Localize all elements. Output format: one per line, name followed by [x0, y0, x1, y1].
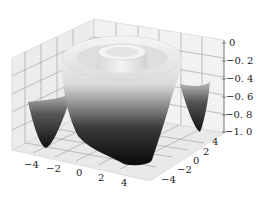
z-tick-label: −0. 8 [225, 110, 252, 120]
x-tick-label: 0 [76, 168, 82, 178]
z-tick-label: −0. 4 [226, 74, 253, 84]
y-tick-label: −4 [161, 175, 176, 185]
x-tick-label: 4 [121, 178, 127, 188]
x-tick-label: −2 [46, 164, 61, 174]
y-tick-label: −2 [177, 165, 192, 175]
x-tick-label: −4 [24, 160, 39, 170]
surface-plot-3d [0, 0, 264, 202]
z-tick-label: −1. 0 [225, 127, 252, 137]
y-tick-label: 0 [193, 156, 199, 166]
surface-center-peak [96, 44, 148, 73]
z-tick-label: −0. 6 [226, 92, 253, 102]
z-tick-label: 0 [229, 38, 235, 48]
y-tick-label: 2 [203, 147, 209, 157]
y-tick-label: 4 [212, 137, 218, 147]
x-tick-label: 2 [98, 173, 104, 183]
z-tick-label: −0. 2 [226, 56, 253, 66]
